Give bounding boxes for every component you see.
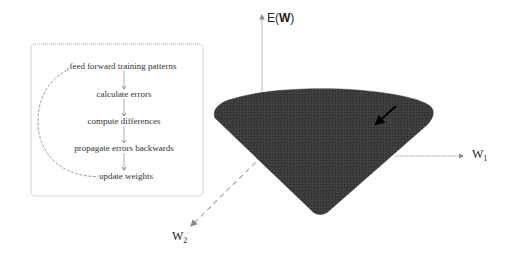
w1-axis-label: W1: [472, 147, 487, 163]
error-surface-cone: [214, 89, 433, 215]
w2-axis-label: W2: [172, 229, 187, 245]
error-axis-suffix: ): [290, 11, 294, 25]
step-calculate-errors: calculate errors: [95, 89, 152, 99]
error-axis-bold-w: W: [279, 11, 290, 25]
step-update-weights: update weights: [98, 171, 154, 181]
error-axis-prefix: E(: [267, 11, 279, 25]
step-compute-differences: compute differences: [86, 116, 161, 126]
w1-subscript: 1: [483, 154, 487, 163]
w2-subscript: 2: [183, 236, 187, 245]
w1-base: W: [472, 147, 483, 161]
step-propagate-errors: propagate errors backwards: [73, 143, 174, 153]
error-axis-label: E(W): [267, 11, 294, 25]
backprop-diagram: feed forward training patterns calculate…: [0, 0, 518, 263]
w2-base: W: [172, 229, 183, 243]
step-feed-forward: feed forward training patterns: [68, 61, 177, 71]
